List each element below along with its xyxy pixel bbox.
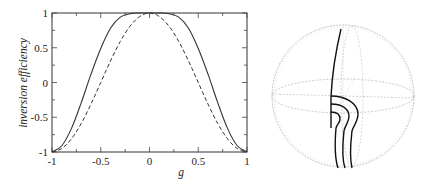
x-tick-label: -1 (47, 155, 56, 167)
y-tick-label: 0.5 (34, 42, 48, 54)
x-tick-label: 0 (147, 155, 153, 167)
trajectory-top (331, 29, 341, 97)
y-tick-label: -1 (39, 146, 48, 158)
x-tick-labels: -1 -0.5 0 0.5 1 (47, 155, 249, 167)
y-tick-label: 1 (43, 7, 49, 19)
axis-ticks (52, 13, 247, 152)
trajectory-middle (331, 104, 349, 168)
line-plot: -1 -0.5 0 0.5 1 1 0.5 0 -0.5 -1 g invers… (17, 7, 250, 179)
x-tick-label: 1 (244, 155, 250, 167)
y-tick-labels: 1 0.5 0 -0.5 -1 (31, 7, 49, 158)
x-tick-label: 0.5 (191, 155, 205, 167)
plot-frame (52, 13, 247, 152)
diagonal-axis (336, 78, 354, 112)
y-axis-title: inversion efficiency (17, 37, 30, 128)
meridian (341, 26, 363, 166)
solid-series-line (52, 13, 247, 152)
figure: -1 -0.5 0 0.5 1 1 0.5 0 -0.5 -1 g invers… (0, 0, 429, 183)
dashed-series-line (52, 13, 247, 152)
trajectory-inner (331, 112, 340, 168)
x-axis-title: g (178, 166, 184, 179)
y-tick-label: 0 (43, 77, 49, 89)
bloch-sphere (272, 25, 414, 168)
x-tick-label: -0.5 (92, 155, 110, 167)
y-tick-label: -0.5 (31, 111, 49, 123)
